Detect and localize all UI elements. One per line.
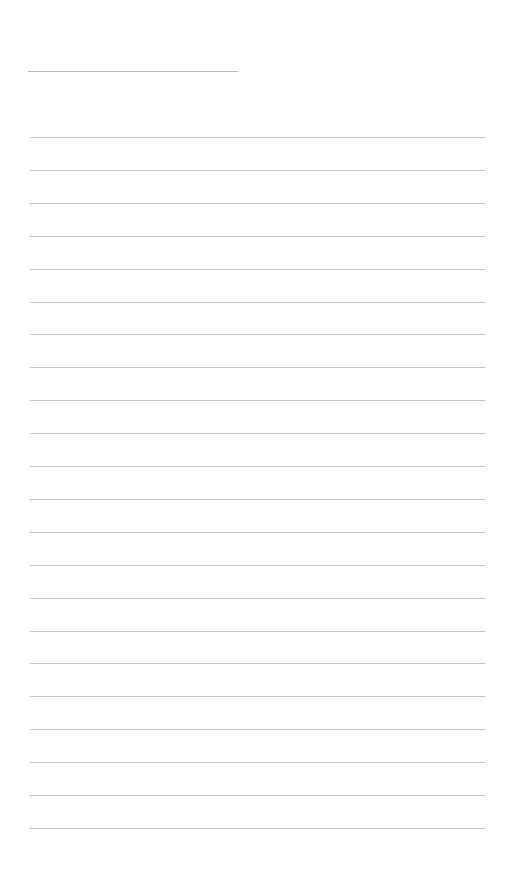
ruled-line	[30, 137, 485, 138]
ruled-line	[30, 302, 485, 303]
ruled-line	[30, 367, 485, 368]
ruled-line	[30, 236, 485, 237]
ruled-line	[30, 499, 485, 500]
ruled-line	[30, 400, 485, 401]
ruled-line	[30, 170, 485, 171]
ruled-line	[30, 565, 485, 566]
ruled-line	[30, 598, 485, 599]
ruled-line	[30, 828, 485, 829]
ruled-line	[30, 203, 485, 204]
ruled-line	[30, 696, 485, 697]
ruled-line	[30, 795, 485, 796]
title-write-line	[28, 71, 238, 72]
ruled-line	[30, 762, 485, 763]
ruled-line	[30, 532, 485, 533]
ruled-line	[30, 334, 485, 335]
ruled-line	[30, 631, 485, 632]
ruled-line	[30, 433, 485, 434]
ruled-line	[30, 663, 485, 664]
ruled-line	[30, 466, 485, 467]
ruled-line	[30, 269, 485, 270]
ruled-line	[30, 729, 485, 730]
